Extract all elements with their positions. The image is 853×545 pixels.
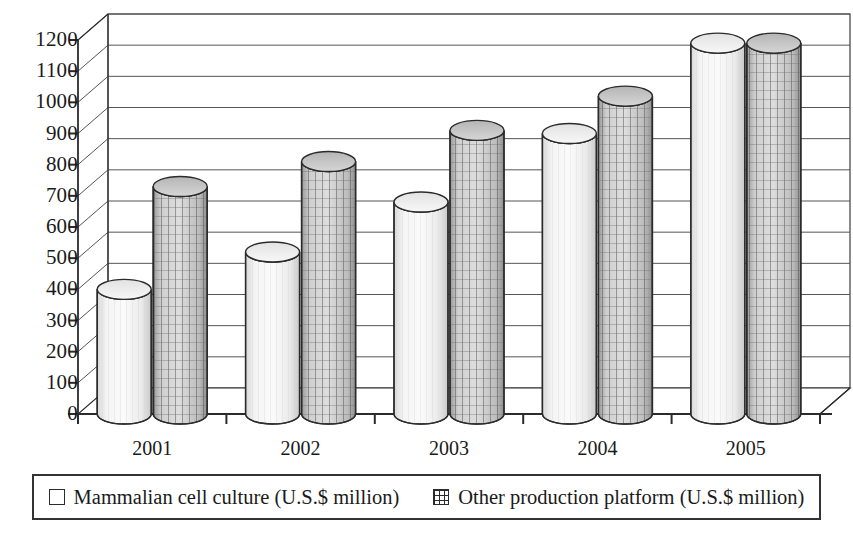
gridline-connector	[78, 201, 108, 227]
x-axis-tick-label-2003: 2003	[404, 438, 494, 458]
bar-top-ellipse	[691, 33, 745, 53]
x-axis-tick-label-2004: 2004	[552, 438, 642, 458]
bar-hatch	[450, 130, 504, 424]
chart-legend: Mammalian cell culture (U.S.$ million)Ot…	[32, 474, 821, 520]
y-axis-tick-label: 300	[6, 310, 78, 331]
bar-rib	[394, 202, 448, 424]
bar-rib	[542, 134, 596, 425]
y-axis-tick-label: 400	[6, 278, 78, 299]
bar-hatch	[747, 43, 801, 424]
bar-top-ellipse	[394, 192, 448, 212]
y-axis-tick-label: 800	[6, 154, 78, 175]
chart-plot-area	[0, 0, 853, 545]
y-axis-tick-label: 100	[6, 372, 78, 393]
y-axis-tick-labels: 1200110010009008007006005004003002001000	[0, 0, 78, 440]
y-axis-tick-label: 1000	[6, 91, 78, 112]
bar-2003-series2	[450, 120, 504, 424]
y-axis-tick-label: 700	[6, 185, 78, 206]
bar-top-ellipse	[747, 33, 801, 53]
y-axis-top-connector	[78, 14, 108, 40]
bar-2003-series1	[394, 192, 448, 424]
bar-hatch	[302, 162, 356, 424]
empty-square-icon	[49, 489, 65, 505]
y-axis-tick-label: 0	[6, 403, 78, 424]
bar-2001-series1	[97, 279, 151, 424]
bar-hatch	[153, 186, 207, 424]
bar-top-ellipse	[302, 152, 356, 172]
x-axis-tick-label-2002: 2002	[256, 438, 346, 458]
bar-2001-series2	[153, 176, 207, 424]
x-axis-tick-label-2005: 2005	[701, 438, 791, 458]
bar-2005-series2	[747, 33, 801, 424]
legend-label: Other production platform (U.S.$ million…	[458, 486, 804, 508]
gridline-connector	[78, 170, 108, 196]
gridline-connector	[78, 108, 108, 134]
y-axis-tick-label: 1200	[6, 29, 78, 50]
legend-entry-2[interactable]: Other production platform (U.S.$ million…	[433, 486, 804, 508]
bar-top-ellipse	[97, 279, 151, 299]
gridline-connector	[78, 45, 108, 71]
gridline-connector	[78, 232, 108, 258]
bar-2002-series2	[302, 152, 356, 424]
legend-label: Mammalian cell culture (U.S.$ million)	[74, 486, 400, 508]
bar-top-ellipse	[598, 86, 652, 106]
y-axis-tick-label: 1100	[6, 60, 78, 81]
bar-2005-series1	[691, 33, 745, 424]
y-axis-tick-label: 500	[6, 247, 78, 268]
bar-top-ellipse	[246, 242, 300, 262]
bar-top-ellipse	[450, 120, 504, 140]
bar-2002-series1	[246, 242, 300, 424]
x-axis-tick-label-2001: 2001	[107, 438, 197, 458]
grid-square-icon	[433, 489, 449, 505]
y-axis-tick-label: 900	[6, 123, 78, 144]
gridline-connector	[78, 139, 108, 165]
bar-rib	[691, 43, 745, 424]
bar-hatch	[598, 96, 652, 424]
y-axis-tick-label: 600	[6, 216, 78, 237]
y-axis-tick-label: 200	[6, 341, 78, 362]
gridline-connector	[78, 76, 108, 102]
bar-2004-series1	[542, 124, 596, 425]
bar-2004-series2	[598, 86, 652, 424]
bar-rib	[97, 289, 151, 424]
bar-chart: 1200110010009008007006005004003002001000…	[0, 0, 853, 545]
legend-entry-1[interactable]: Mammalian cell culture (U.S.$ million)	[49, 486, 400, 508]
bar-rib	[246, 252, 300, 424]
bar-top-ellipse	[542, 124, 596, 144]
bar-top-ellipse	[153, 176, 207, 196]
